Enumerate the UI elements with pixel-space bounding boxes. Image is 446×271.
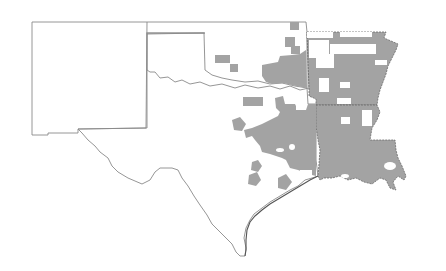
- county-tx-3: [251, 160, 262, 172]
- tx-gap-3: [296, 104, 306, 110]
- arkansas-gap-6: [375, 60, 387, 65]
- tx-gap-4: [300, 170, 312, 176]
- county-tx-1: [243, 97, 263, 106]
- louisiana-gap-2: [362, 110, 372, 126]
- state-new-mexico: [32, 22, 147, 135]
- county-ok-cluster: [262, 50, 307, 88]
- county-tx-5: [278, 174, 292, 190]
- arkansas-gap-8: [340, 82, 350, 88]
- arkansas-gap-4: [330, 44, 376, 54]
- county-ok-3: [215, 55, 230, 63]
- arkansas-gap-1: [307, 32, 333, 38]
- county-tx-4: [248, 172, 261, 186]
- lake-pontchartrain: [384, 162, 396, 170]
- arkansas-gap-9: [337, 98, 351, 104]
- arkansas-gap-5: [316, 54, 334, 68]
- county-ok-5: [230, 64, 238, 72]
- arkansas-gap-2: [340, 32, 372, 37]
- tx-gap-2: [289, 144, 295, 150]
- state-louisiana: [316, 105, 406, 190]
- map-container: [0, 0, 446, 271]
- arkansas-gap-7: [319, 78, 329, 92]
- tx-gap-1: [276, 148, 284, 152]
- louisiana-gap-1: [341, 117, 350, 124]
- region-map: [0, 0, 446, 271]
- louisiana-gap: [341, 174, 349, 178]
- county-ok-4: [291, 46, 300, 54]
- county-ok-2: [285, 37, 295, 47]
- county-ok-1: [290, 22, 299, 30]
- county-tx-2: [232, 117, 246, 131]
